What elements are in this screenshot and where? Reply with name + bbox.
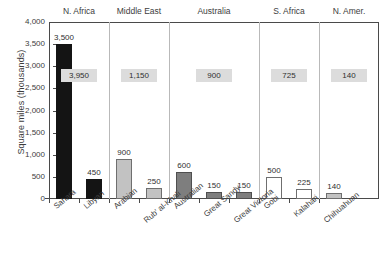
y-axis-tick-label: 500 (8, 173, 45, 181)
x-axis-tick-mark (229, 199, 230, 203)
y-axis-tick-label: 3,000 (8, 62, 45, 70)
group-total-box: 1,150 (121, 69, 157, 82)
group-header-middle-east: Middle East (109, 6, 169, 17)
group-header-n-africa: N. Africa (49, 6, 109, 17)
x-axis-tick-mark (169, 199, 170, 203)
x-axis-tick-mark (79, 199, 80, 203)
bar-value-label: 500 (254, 166, 294, 175)
x-axis-tick-mark (319, 199, 320, 203)
y-axis-tick-label: 2,500 (8, 84, 45, 92)
bar-value-label: 3,500 (44, 33, 84, 42)
x-axis-tick-mark (139, 199, 140, 203)
x-axis-tick-mark (109, 199, 110, 203)
group-header-row: N. AfricaMiddle EastAustraliaS. AfricaN.… (49, 6, 379, 20)
y-axis-tick-label: 0 (8, 195, 45, 203)
bar-chihuahuan[interactable] (326, 193, 342, 199)
bar-value-label: 900 (104, 148, 144, 157)
group-total-box: 3,950 (61, 69, 97, 82)
bar-value-label: 450 (74, 168, 114, 177)
bar-sahara[interactable] (56, 44, 72, 199)
bar-chart: Square miles (thousands) 4,0003,5003,000… (0, 0, 386, 266)
group-header-australia: Australia (169, 6, 259, 17)
bar-rub-al-khali[interactable] (146, 188, 162, 199)
y-axis-tick-label: 2,000 (8, 107, 45, 115)
x-axis-tick-mark (199, 199, 200, 203)
group-divider (319, 22, 320, 199)
y-axis-tick-label: 4,000 (8, 18, 45, 26)
bar-great-victoria[interactable] (236, 192, 252, 199)
y-axis-tick-label: 3,500 (8, 40, 45, 48)
y-axis-tick-label: 1,000 (8, 151, 45, 159)
group-divider (169, 22, 170, 199)
group-total-box: 140 (331, 69, 367, 82)
y-axis-tick-label: 1,500 (8, 129, 45, 137)
x-axis-tick-mark (49, 199, 50, 203)
group-divider (259, 22, 260, 199)
bar-value-label: 600 (164, 161, 204, 170)
x-axis-tick-mark (259, 199, 260, 203)
bar-value-label: 140 (314, 182, 354, 191)
group-total-box: 725 (271, 69, 307, 82)
group-total-box: 900 (196, 69, 232, 82)
group-header-s-africa: S. Africa (259, 6, 319, 17)
bar-value-label: 250 (134, 177, 174, 186)
group-divider (109, 22, 110, 199)
y-axis-tick-labels: 4,0003,5003,0002,5002,0001,5001,0005000 (8, 18, 45, 199)
x-axis-tick-mark (289, 199, 290, 203)
group-header-n-amer: N. Amer. (319, 6, 379, 17)
